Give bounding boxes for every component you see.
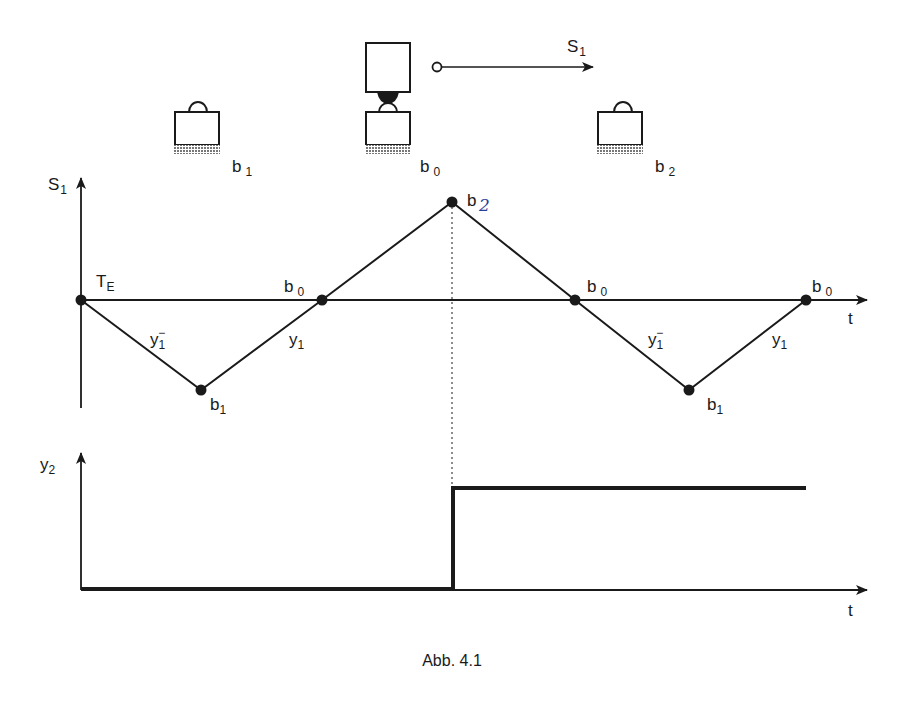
y-axis-label-y2: y2 — [40, 455, 56, 477]
chart-s1-position: S1 t TE b0 b1 b 2 b0 b1 b0 y1− y1 y1− y1 — [48, 175, 867, 486]
label-b1-first: b1 — [210, 395, 226, 417]
block-knob-icon — [189, 102, 207, 112]
point-b1-first — [196, 385, 207, 396]
block-body — [598, 112, 642, 145]
point-b2 — [447, 197, 458, 208]
segment-label-y1-first: y1 — [289, 330, 305, 352]
label-b1-second: b1 — [707, 395, 723, 417]
motion-arrow-label: S1 — [567, 37, 586, 59]
y2-step-signal — [81, 488, 806, 589]
label-b0-third: b0 — [812, 277, 832, 299]
block-b2: b2 — [597, 102, 675, 179]
x-axis-label-t: t — [848, 309, 853, 328]
x-axis-label-t-y2: t — [848, 601, 853, 620]
label-b2: b — [467, 191, 476, 210]
block-b1-label: b1 — [232, 157, 252, 179]
chart-y2-signal: y2 t — [40, 453, 867, 620]
point-b0-first — [317, 295, 328, 306]
block-b2-label: b2 — [655, 157, 675, 179]
block-body — [175, 112, 219, 145]
point-b0-third — [801, 295, 812, 306]
segment-label-y1-second: y1 — [772, 330, 788, 352]
block-b1: b1 — [174, 102, 252, 179]
motion-arrow-s1: S1 — [433, 37, 594, 72]
point-b0-second — [570, 295, 581, 306]
point-b1-second — [684, 385, 695, 396]
label-b0-first: b0 — [284, 277, 304, 299]
block-base-hatch — [597, 145, 643, 154]
s1-trajectory-line — [81, 202, 806, 390]
handwritten-annotation-2: 2 — [478, 195, 490, 215]
gripper-body — [366, 43, 410, 92]
y-axis-label-s1: S1 — [48, 175, 67, 197]
figure-caption: Abb. 4.1 — [422, 652, 482, 669]
label-b0-second: b0 — [587, 277, 607, 299]
block-base-hatch — [365, 145, 411, 154]
block-knob-icon — [379, 103, 397, 112]
point-te — [76, 295, 87, 306]
block-b0-label: b0 — [420, 157, 440, 179]
block-base-hatch — [174, 145, 220, 154]
block-b0-with-gripper: b0 — [365, 43, 440, 179]
start-circle-icon — [433, 63, 442, 72]
figure-canvas: b1 b0 S1 b2 S1 t TE b0 b1 — [0, 0, 905, 702]
block-body — [366, 112, 410, 145]
label-te: TE — [96, 272, 114, 294]
segment-label-y1-minus-first: y1− — [150, 326, 166, 352]
block-knob-icon — [614, 102, 632, 112]
segment-label-y1-minus-second: y1− — [648, 326, 664, 352]
